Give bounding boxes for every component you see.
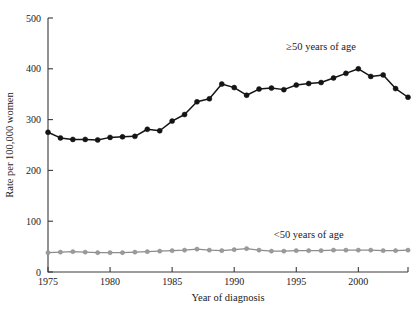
- data-point: [381, 249, 385, 253]
- y-tick-label: 500: [26, 13, 41, 24]
- data-point: [356, 66, 361, 71]
- data-point: [95, 137, 100, 142]
- data-point: [170, 119, 175, 124]
- x-axis-label: Year of diagnosis: [191, 292, 264, 303]
- x-tick-label: 1975: [38, 276, 58, 287]
- data-point: [170, 249, 174, 253]
- data-point: [145, 127, 150, 132]
- series-annotation-under50: <50 years of age: [274, 229, 344, 240]
- data-point: [145, 250, 149, 254]
- data-point: [58, 135, 63, 140]
- data-point: [133, 250, 137, 254]
- data-point: [344, 248, 348, 252]
- data-point: [281, 87, 286, 92]
- data-point: [232, 248, 236, 252]
- data-point: [269, 86, 274, 91]
- data-point: [96, 251, 100, 255]
- data-point: [58, 250, 62, 254]
- x-tick-label: 1980: [100, 276, 120, 287]
- data-point: [132, 134, 137, 139]
- data-point: [70, 137, 75, 142]
- data-point: [269, 249, 273, 253]
- data-point: [406, 248, 410, 252]
- x-tick-label: 1995: [286, 276, 306, 287]
- data-point: [157, 128, 162, 133]
- data-point: [232, 85, 237, 90]
- data-point: [294, 249, 298, 253]
- y-tick-label: 200: [26, 165, 41, 176]
- data-series-group: [46, 66, 411, 254]
- data-point: [282, 249, 286, 253]
- series-line-under50: [48, 249, 408, 253]
- data-point: [207, 248, 211, 252]
- data-point: [393, 249, 397, 253]
- series-annotation-over50: ≥50 years of age: [286, 41, 356, 52]
- data-point: [182, 248, 186, 252]
- series-annotations: ≥50 years of age<50 years of age: [274, 41, 356, 240]
- data-point: [158, 249, 162, 253]
- data-point: [120, 134, 125, 139]
- data-point: [219, 82, 224, 87]
- chart-axes: [48, 18, 408, 272]
- data-point: [331, 248, 335, 252]
- data-point: [244, 93, 249, 98]
- data-point: [343, 71, 348, 76]
- x-tick-label: 1990: [224, 276, 244, 287]
- data-point: [108, 135, 113, 140]
- data-point: [83, 137, 88, 142]
- y-tick-label: 400: [26, 63, 41, 74]
- data-point: [194, 99, 199, 104]
- x-tick-label: 2000: [348, 276, 368, 287]
- x-axis-ticks: 197519801985199019952000: [38, 267, 408, 287]
- data-point: [356, 248, 360, 252]
- data-point: [306, 81, 311, 86]
- axis-spines: [48, 18, 408, 272]
- y-axis-ticks: 0100200300400500: [26, 13, 53, 278]
- data-point: [393, 86, 398, 91]
- data-point: [207, 96, 212, 101]
- data-point: [46, 130, 51, 135]
- data-point: [120, 251, 124, 255]
- data-point: [182, 112, 187, 117]
- data-point: [220, 249, 224, 253]
- data-point: [319, 249, 323, 253]
- data-point: [368, 74, 373, 79]
- line-chart-canvas: 0100200300400500 19751980198519901995200…: [0, 0, 416, 311]
- data-point: [319, 80, 324, 85]
- data-point: [108, 251, 112, 255]
- data-point: [257, 248, 261, 252]
- data-point: [46, 251, 50, 255]
- data-point: [406, 95, 411, 100]
- data-point: [257, 87, 262, 92]
- data-point: [369, 248, 373, 252]
- data-point: [307, 249, 311, 253]
- y-tick-label: 100: [26, 216, 41, 227]
- x-tick-label: 1985: [162, 276, 182, 287]
- y-axis-label: Rate per 100,000 women: [4, 91, 15, 197]
- data-point: [381, 72, 386, 77]
- data-point: [331, 75, 336, 80]
- data-point: [83, 250, 87, 254]
- chart-figure: 0100200300400500 19751980198519901995200…: [0, 0, 416, 311]
- series-line-over50: [48, 69, 408, 140]
- data-point: [195, 247, 199, 251]
- data-point: [245, 247, 249, 251]
- data-point: [71, 250, 75, 254]
- data-point: [294, 83, 299, 88]
- y-tick-label: 300: [26, 114, 41, 125]
